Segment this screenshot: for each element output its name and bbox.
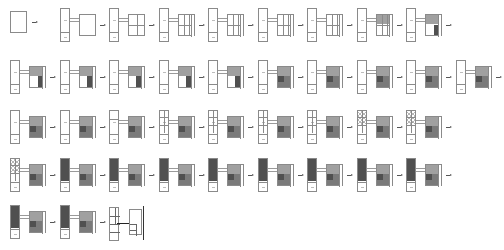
- tower-divider: [407, 84, 415, 85]
- tower-block: [406, 110, 416, 144]
- arrow-right-icon: [149, 25, 153, 26]
- diagram-step: [60, 60, 108, 100]
- diagram-step: [357, 110, 405, 150]
- tower-divider: [259, 182, 267, 183]
- room-square: [326, 66, 343, 88]
- diagram-step: [60, 8, 108, 48]
- room-side-strip: [438, 67, 441, 89]
- tower-label-mark: [361, 89, 364, 90]
- room-side-strip: [92, 212, 95, 234]
- tower-block: [159, 60, 169, 94]
- tower-label-mark: [14, 139, 17, 140]
- room-square: [376, 66, 393, 88]
- room-square: [227, 164, 244, 186]
- room-region: [31, 179, 36, 184]
- room-square: [79, 211, 96, 233]
- diagram-step: [307, 158, 355, 198]
- room-square: [29, 66, 46, 88]
- tower-divider: [160, 182, 168, 183]
- tower-label-mark: [311, 72, 314, 73]
- room-region: [130, 131, 135, 136]
- room-square: [227, 116, 244, 138]
- diagram-step: [307, 60, 355, 100]
- tower-hatch: [11, 159, 19, 173]
- tower-label-mark: [361, 72, 364, 73]
- arrow-right-icon: [199, 25, 203, 26]
- tower-partition: [263, 111, 264, 133]
- arrow-right-icon: [100, 222, 104, 223]
- tower-label-mark: [212, 37, 215, 38]
- diagram-step: [406, 60, 454, 100]
- room-side-strip: [240, 117, 243, 139]
- arrow-right-icon: [347, 127, 351, 128]
- tower-label-mark: [64, 37, 67, 38]
- tower-block: [357, 60, 367, 94]
- room-side-strip: [92, 165, 95, 187]
- room-square: [376, 116, 393, 138]
- arrow-right-icon: [50, 127, 54, 128]
- room-side-strip: [191, 165, 194, 187]
- room-region: [81, 131, 86, 136]
- tower-block: [208, 60, 218, 94]
- room-square: [277, 116, 294, 138]
- arrow-right-icon: [446, 25, 450, 26]
- arrow-right-icon: [298, 25, 302, 26]
- arrow-right-icon: [347, 175, 351, 176]
- tower-label-mark: [163, 72, 166, 73]
- tower-label-mark: [212, 139, 215, 140]
- arrow-right-icon: [199, 127, 203, 128]
- diagram-step: [307, 8, 355, 48]
- diagram-step: [307, 110, 355, 150]
- arrow-right-icon: [248, 127, 252, 128]
- tower-label-mark: [311, 187, 314, 188]
- tower-divider: [61, 32, 69, 33]
- arrow-right-icon: [50, 77, 54, 78]
- tower-divider: [358, 84, 366, 85]
- diagram-step: [357, 60, 405, 100]
- tower-block: [109, 158, 119, 192]
- room-side-strip: [240, 67, 243, 89]
- tower-block: [208, 158, 218, 192]
- tower-label-mark: [311, 37, 314, 38]
- room-square: [425, 116, 442, 138]
- tower-label-mark: [113, 187, 116, 188]
- tower-divider: [407, 182, 415, 183]
- tower-label-mark: [410, 187, 413, 188]
- arrow-right-icon: [149, 77, 153, 78]
- room-side-strip: [290, 117, 293, 139]
- tower-partition: [110, 119, 118, 120]
- room-side-strip: [191, 67, 194, 89]
- diagram-step: [159, 110, 207, 150]
- tower-divider: [209, 182, 217, 183]
- tower-divider: [11, 134, 19, 135]
- room-square: [475, 66, 492, 88]
- tower-block: [258, 60, 268, 94]
- tower-dots: [161, 161, 166, 177]
- room-square: [326, 116, 343, 138]
- room-square: [79, 116, 96, 138]
- diagram-step: [60, 110, 108, 150]
- tower-block: [10, 60, 20, 94]
- tower-divider: [110, 32, 118, 33]
- room-region: [179, 76, 186, 87]
- plan-wall: [136, 224, 137, 236]
- tower-label-mark: [262, 20, 265, 21]
- tower-block: [60, 60, 70, 94]
- tower-dots: [359, 161, 364, 177]
- room-region: [31, 226, 36, 231]
- room-square: [128, 116, 145, 138]
- room-square: [128, 164, 145, 186]
- room-region: [129, 76, 136, 87]
- tower-divider: [110, 134, 118, 135]
- tower-block: [60, 8, 70, 42]
- room-side-strip: [389, 15, 392, 37]
- diagram-step: [258, 60, 306, 100]
- diagram-step: [159, 158, 207, 198]
- plan-room: [129, 209, 142, 235]
- diagram-step: [60, 205, 108, 245]
- room-square: [277, 14, 294, 36]
- room-region: [378, 81, 383, 86]
- tower-label-mark: [212, 72, 215, 73]
- tower-block: [159, 8, 169, 42]
- room-region: [328, 81, 333, 86]
